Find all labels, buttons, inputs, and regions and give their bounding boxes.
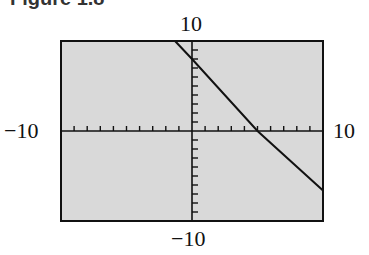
plot-area — [0, 0, 369, 255]
